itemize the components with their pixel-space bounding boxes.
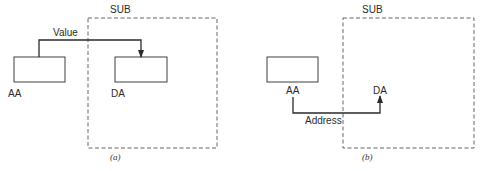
value-arrow [39,40,141,57]
arrowhead-up-icon [377,95,383,103]
address-arrow-label: Address [305,115,342,126]
da-label: DA [111,88,125,99]
panel-b: SUB AA DA Address (b) [267,4,474,162]
aa-label: AA [8,88,22,99]
caption-b: (b) [362,152,373,162]
sub-container-box [343,18,474,148]
aa-box [267,57,318,82]
caption-a: (a) [110,152,121,162]
address-arrow [293,96,380,113]
sub-label: SUB [362,4,383,15]
sub-container-box [88,18,217,148]
aa-box [14,57,65,82]
aa-label: AA [286,85,300,96]
panel-a: SUB AA DA Value (a) [8,4,217,162]
da-label: DA [373,85,387,96]
diagram-canvas: SUB AA DA Value (a) SUB AA DA Address (b… [0,0,480,171]
value-arrow-label: Value [53,27,78,38]
da-box [115,57,167,82]
sub-label: SUB [110,4,131,15]
